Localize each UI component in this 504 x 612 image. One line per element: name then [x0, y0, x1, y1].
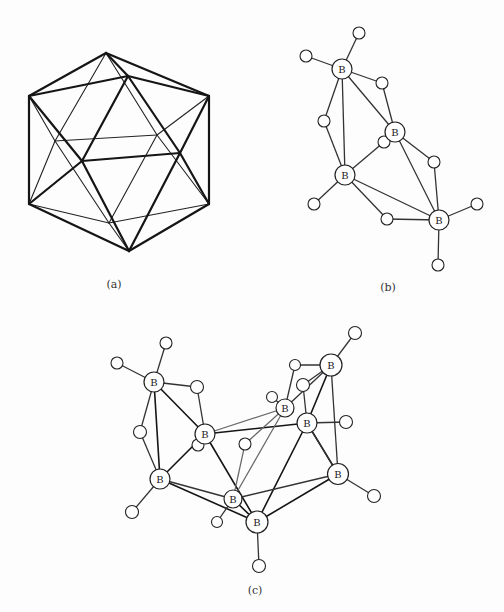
figure-canvas: (a) [0, 0, 504, 612]
hydrogen-atom [191, 381, 204, 394]
svg-text:B: B [253, 517, 260, 528]
hydrogen-atom [239, 438, 251, 450]
boron-atom: B [332, 59, 352, 79]
svg-text:B: B [391, 127, 398, 138]
panel-label-c: (c) [248, 584, 263, 597]
hydrogen-atom [318, 115, 330, 127]
panel-label-b: (b) [380, 281, 396, 294]
boron-atom: B [328, 464, 349, 485]
hydrogen-atom [134, 426, 147, 439]
hydrogen-atom [353, 27, 365, 39]
hydrogen-atom [300, 50, 312, 62]
borane-b: B B B B [300, 27, 483, 271]
svg-text:B: B [201, 429, 208, 440]
hydrogen-atom [253, 560, 266, 573]
hydrogen-atom [376, 77, 388, 89]
hydrogen-atom [471, 198, 483, 210]
svg-text:B: B [229, 494, 236, 505]
boron-atom: B [385, 122, 405, 142]
boron-atom: B [224, 490, 242, 508]
svg-text:B: B [334, 469, 341, 480]
boron-atom: B [276, 399, 294, 417]
borane-c: B B B B B B B B B [111, 327, 381, 573]
icosahedron-back-edges [29, 53, 209, 251]
boron-atom: B [335, 165, 355, 185]
hydrogen-atom [160, 337, 172, 349]
svg-text:B: B [156, 474, 163, 485]
hydrogen-atom [368, 490, 381, 503]
hydrogen-atom [308, 198, 320, 210]
hydrogen-atom [267, 392, 278, 403]
boron-atom: B [246, 511, 268, 533]
hydrogen-atom [212, 517, 223, 528]
hydrogen-atom [340, 416, 353, 429]
panel-label-a: (a) [106, 278, 121, 291]
boron-atom: B [144, 372, 164, 392]
svg-text:B: B [435, 215, 442, 226]
hydrogen-atom [126, 506, 139, 519]
svg-text:B: B [303, 418, 310, 429]
icosahedron [29, 53, 209, 251]
svg-text:B: B [150, 377, 157, 388]
hydrogen-atom [381, 213, 393, 225]
svg-text:B: B [341, 170, 348, 181]
hydrogen-atom [432, 259, 444, 271]
hydrogen-atom [428, 156, 440, 168]
boron-atom: B [320, 354, 342, 376]
svg-text:B: B [338, 64, 345, 75]
hydrogen-atom [290, 360, 301, 371]
boron-atom: B [150, 469, 170, 489]
svg-text:B: B [327, 360, 334, 371]
hydrogen-atom [111, 357, 123, 369]
hydrogen-atom [297, 379, 310, 392]
boron-atom: B [195, 424, 215, 444]
boron-atom: B [429, 210, 449, 230]
hydrogen-atom [349, 327, 362, 340]
boron-atom: B [297, 413, 317, 433]
svg-text:B: B [281, 403, 288, 414]
